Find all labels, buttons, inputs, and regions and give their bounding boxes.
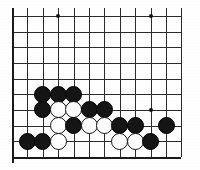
black-stone [158, 117, 175, 134]
go-board-diagram [0, 0, 200, 170]
black-stone [34, 133, 51, 150]
white-stone [65, 101, 82, 118]
black-stone [34, 86, 51, 103]
black-stone [34, 101, 51, 118]
black-stone [65, 86, 82, 103]
black-stone [127, 117, 144, 134]
white-stone [81, 117, 98, 134]
black-stone [142, 133, 159, 150]
black-stone [111, 117, 128, 134]
white-stone [111, 133, 128, 150]
black-stone [65, 117, 82, 134]
black-stone [96, 101, 113, 118]
white-stone [50, 133, 67, 150]
stones-layer [0, 0, 200, 170]
black-stone [81, 101, 98, 118]
